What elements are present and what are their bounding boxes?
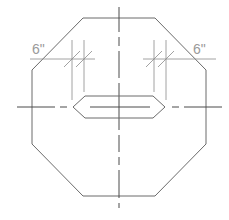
- dimension-label-right: 6": [193, 41, 206, 57]
- dimension-label-left: 6": [32, 41, 45, 57]
- technical-drawing: 6" 6": [0, 0, 229, 220]
